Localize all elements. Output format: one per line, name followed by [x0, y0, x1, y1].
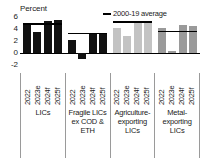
- x-axis-tick-label: 2022: [113, 74, 121, 105]
- y-axis: 6420-2: [0, 17, 20, 73]
- bar-slot: [99, 17, 107, 65]
- bar[interactable]: [33, 32, 41, 53]
- y-axis-tick-label: -2: [11, 61, 18, 69]
- group-name-label: Fragile LICs ex COD & ETH: [66, 108, 110, 135]
- average-line: [68, 33, 107, 35]
- category-group: 20222023e2024f2025fLICs: [20, 73, 66, 158]
- bar[interactable]: [44, 21, 52, 53]
- bar-slot: [144, 17, 152, 65]
- average-line: [113, 21, 152, 23]
- bar[interactable]: [134, 23, 142, 53]
- bar[interactable]: [78, 53, 86, 59]
- bar-slot: [189, 17, 197, 65]
- x-tick-label-row: 20222023e2024f2025f: [21, 73, 65, 105]
- bar-groups: [20, 17, 200, 65]
- bar-group: [155, 17, 200, 65]
- group-name-label: Agriculture-exporting LICs: [111, 108, 155, 135]
- bar-group: [65, 17, 110, 65]
- y-axis-tick-label: 0: [14, 49, 18, 57]
- bar-slot: [113, 17, 121, 65]
- group-name-label: Metal-exporting LICs: [155, 108, 199, 135]
- x-tick-label-row: 20222023e2024f2025f: [66, 73, 110, 105]
- bar[interactable]: [23, 24, 31, 53]
- bar-slot: [158, 17, 166, 65]
- x-tick-label-row: 20222023e2024f2025f: [111, 73, 155, 105]
- category-group: 20222023e2024f2025fAgriculture-exporting…: [111, 73, 156, 158]
- x-tick-label-row: 20222023e2024f2025f: [155, 73, 199, 105]
- y-axis-tick-label: 2: [14, 37, 18, 45]
- bar-slot: [68, 17, 76, 65]
- x-axis-tick-label: 2024f: [178, 74, 186, 105]
- plot-area: 6420-2: [0, 17, 203, 73]
- x-axis-tick-label: 2025f: [99, 74, 107, 105]
- x-axis-tick-label: 2024f: [44, 74, 52, 105]
- x-axis-tick-label: 2022: [158, 74, 166, 105]
- average-line: [158, 31, 197, 33]
- bar[interactable]: [168, 51, 176, 53]
- category-axis: 20222023e2024f2025fLICs20222023e2024f202…: [20, 73, 200, 158]
- bar[interactable]: [99, 33, 107, 53]
- bar[interactable]: [68, 40, 76, 53]
- x-axis-tick-label: 2023e: [123, 74, 131, 105]
- x-axis-tick-label: 2022: [24, 74, 32, 105]
- category-group: 20222023e2024f2025fFragile LICs ex COD &…: [66, 73, 111, 158]
- bar[interactable]: [179, 25, 187, 53]
- bar-slot: [89, 17, 97, 65]
- x-axis-tick-label: 2023e: [79, 74, 87, 105]
- bar-slot: [134, 17, 142, 65]
- bar-group: [110, 17, 155, 65]
- bar[interactable]: [113, 28, 121, 53]
- category-group: 20222023e2024f2025fMetal-exporting LICs: [155, 73, 200, 158]
- bar[interactable]: [123, 36, 131, 53]
- bar-slot: [78, 17, 86, 65]
- x-axis-tick-label: 2024f: [89, 74, 97, 105]
- chart-figure: Percent 2000-19 average 6420-2 20222023e…: [0, 0, 203, 158]
- y-axis-tick-label: 6: [14, 13, 18, 21]
- bar[interactable]: [54, 20, 62, 53]
- x-axis-tick-label: 2025f: [188, 74, 196, 105]
- x-axis-tick-label: 2024f: [133, 74, 141, 105]
- y-axis-tick-label: 4: [14, 25, 18, 33]
- bar-slot: [168, 17, 176, 65]
- bars-canvas: [20, 17, 200, 65]
- bar-group: [20, 17, 65, 65]
- average-line-marker-icon: [103, 13, 111, 15]
- x-axis-tick-label: 2023e: [168, 74, 176, 105]
- group-name-label: LICs: [21, 108, 65, 117]
- x-axis-tick-label: 2022: [69, 74, 77, 105]
- x-axis-tick-label: 2023e: [34, 74, 42, 105]
- bar-slot: [179, 17, 187, 65]
- bar-slot: [123, 17, 131, 65]
- average-line: [23, 23, 62, 25]
- bar[interactable]: [89, 33, 97, 53]
- bar[interactable]: [144, 22, 152, 53]
- y-axis-unit-label: Percent: [20, 4, 47, 13]
- x-axis-tick-label: 2025f: [54, 74, 62, 105]
- x-axis-tick-label: 2025f: [143, 74, 151, 105]
